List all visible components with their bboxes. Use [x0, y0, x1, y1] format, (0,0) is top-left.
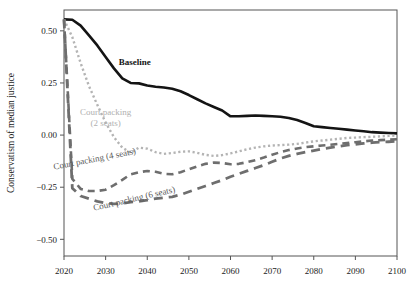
y-tick-label: −0.50: [36, 235, 57, 245]
y-tick-label: 0.50: [41, 26, 57, 36]
chart-figure: −0.50−0.250.000.250.50 20202030204020502…: [0, 0, 417, 293]
series-line: [64, 19, 397, 156]
x-tick-label: 2020: [55, 266, 74, 276]
conservatism-line-chart: −0.50−0.250.000.250.50 20202030204020502…: [0, 0, 417, 293]
y-tick-label: −0.25: [36, 182, 57, 192]
x-tick-label: 2060: [222, 266, 241, 276]
x-tick-label: 2040: [138, 266, 157, 276]
series-label: Baseline: [119, 57, 151, 67]
y-tick-label: 0.25: [41, 78, 57, 88]
x-tick-label: 2070: [263, 266, 282, 276]
x-tick-label: 2100: [388, 266, 407, 276]
y-axis-tick-labels: −0.50−0.250.000.250.50: [36, 26, 57, 244]
series-annotations: BaselineCourt packing(2 seats)Court pack…: [53, 57, 176, 213]
x-tick-label: 2080: [305, 266, 324, 276]
series-line: [64, 19, 397, 191]
x-tick-label: 2050: [180, 266, 199, 276]
series-label: Court packing(2 seats): [80, 107, 132, 128]
series-label: Court packing (6 seats): [92, 184, 176, 213]
x-axis-tick-labels: 202020302040205020602070208020902100: [55, 266, 407, 276]
x-axis-ticks: [64, 256, 397, 260]
plot-frame: [64, 10, 397, 256]
series-label: Court packing (4 seats): [53, 146, 137, 172]
y-axis-title: Conservatism of median justice: [6, 73, 16, 193]
y-axis-ticks: [60, 31, 64, 239]
x-tick-label: 2090: [346, 266, 365, 276]
x-tick-label: 2030: [97, 266, 116, 276]
y-tick-label: 0.00: [41, 130, 57, 140]
